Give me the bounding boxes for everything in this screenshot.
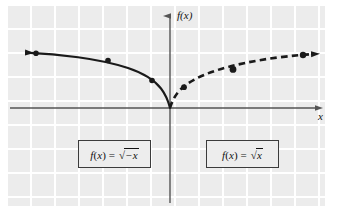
plot-canvas [0,0,338,215]
formula-right-equals: = [238,149,250,161]
formula-box-right: f(x) = √x [206,140,279,168]
y-axis-label-close: ) [189,9,193,21]
formula-left-equals: = [106,149,118,161]
curve-left-path [26,53,170,108]
curve-left-marker [33,50,39,56]
curve-right-path [170,54,312,108]
curve-left-marker [149,78,155,84]
formula-left-radicand-text: −x [125,149,138,161]
axes-group [10,16,316,203]
formula-left-radical: √−x [118,148,139,161]
y-axis-label: f(x) [177,9,192,21]
curve-right-sqrt-x [170,52,312,108]
formula-left-equation: f(x) = √−x [90,148,138,161]
curve-right-marker [300,52,306,58]
formula-right-radicand: x [256,148,263,161]
formula-right-radicand-text: x [257,149,262,161]
curve-left-marker [105,58,111,64]
curve-left-sqrt-negative-x [26,50,170,108]
curve-right-marker [230,66,237,73]
formula-left-radicand: −x [124,148,139,161]
formula-right-radical: √x [250,148,263,161]
formula-box-left: f(x) = √−x [78,140,151,168]
figure-container: f(x) x f(x) = √−x f(x) = √x [0,0,338,215]
curve-right-marker [181,84,187,90]
formula-right-equation: f(x) = √x [222,148,263,161]
x-axis-label: x [318,110,323,122]
